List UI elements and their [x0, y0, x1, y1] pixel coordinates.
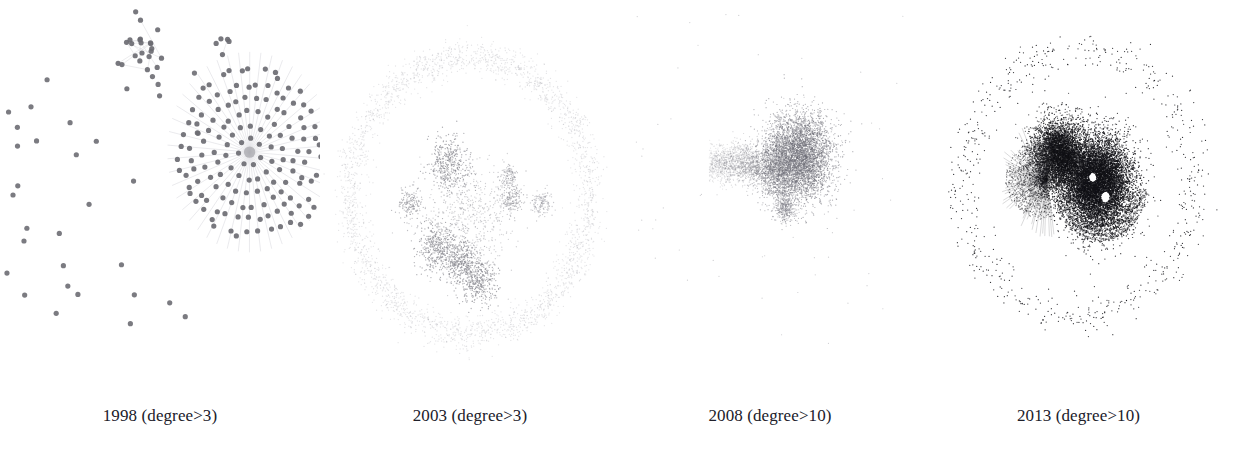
- network-panel-2003: [320, 0, 620, 390]
- network-panel-2013: [920, 0, 1237, 390]
- panel-caption-2008: 2008 (degree>10): [620, 405, 920, 427]
- network-panel-2008: [620, 0, 920, 390]
- panel-caption-2003: 2003 (degree>3): [320, 405, 620, 427]
- network-canvas-2003: [320, 0, 620, 390]
- network-canvas-2013: [920, 0, 1237, 390]
- panel-caption-1998: 1998 (degree>3): [0, 405, 320, 427]
- network-canvas-2008: [620, 0, 920, 390]
- network-evolution-figure: 1998 (degree>3) 2003 (degree>3) 2008 (de…: [0, 0, 1237, 465]
- network-canvas-1998: [0, 0, 320, 390]
- panel-caption-2013: 2013 (degree>10): [920, 405, 1237, 427]
- network-panel-1998: [0, 0, 320, 390]
